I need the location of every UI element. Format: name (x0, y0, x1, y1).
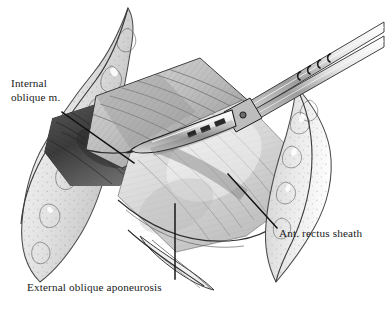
label-ant-rectus-sheath: Ant. rectus sheath (279, 227, 362, 241)
label-external-oblique-aponeurosis: External oblique aponeurosis (27, 281, 162, 295)
subcutaneous-fat-edge-right (265, 86, 331, 282)
label-internal-oblique-line1: Internal (11, 77, 60, 91)
label-internal-oblique: Internal oblique m. (11, 77, 60, 104)
surgical-illustration (0, 0, 385, 324)
label-internal-oblique-line2: oblique m. (11, 91, 60, 105)
forceps-upper-shank (238, 22, 384, 117)
